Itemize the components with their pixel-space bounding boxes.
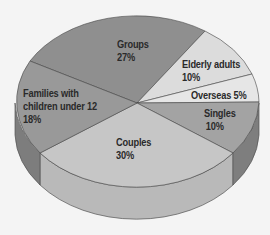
label-singles-name: Singles [204, 107, 236, 120]
label-families-line2: children under 12 [23, 100, 97, 113]
label-couples: Couples 30% [116, 136, 151, 162]
label-singles-pct: 10% [204, 120, 236, 133]
label-families: Families with children under 12 18% [23, 87, 97, 126]
label-singles: Singles 10% [204, 107, 236, 133]
label-overseas: Overseas 5% [191, 89, 247, 102]
label-groups: Groups 27% [117, 38, 149, 64]
label-couples-name: Couples [116, 136, 151, 149]
label-families-line1: Families with [23, 87, 97, 100]
label-groups-pct: 27% [117, 51, 149, 64]
label-couples-pct: 30% [116, 149, 151, 162]
label-families-pct: 18% [23, 113, 97, 126]
label-overseas-text: Overseas 5% [191, 89, 247, 102]
label-groups-name: Groups [117, 38, 149, 51]
label-elderly-name: Elderly adults [182, 58, 240, 71]
label-elderly-pct: 10% [182, 71, 240, 84]
label-elderly: Elderly adults 10% [182, 58, 240, 84]
